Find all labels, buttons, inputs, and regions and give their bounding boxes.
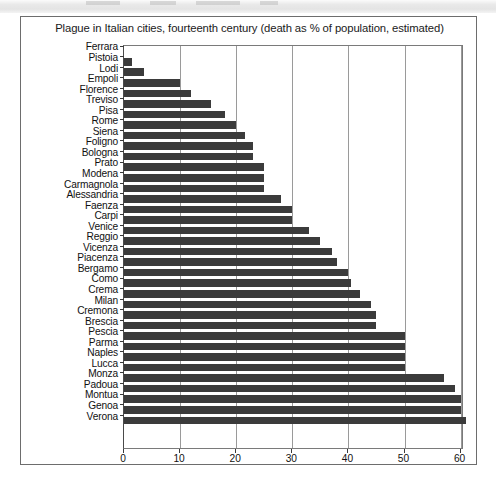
category-label: Siena — [22, 126, 118, 137]
category-label: Ferrara — [22, 41, 118, 52]
category-label: Reggio — [22, 231, 118, 242]
category-label: Cremona — [22, 305, 118, 316]
category-tick — [120, 404, 124, 405]
bar — [124, 343, 405, 351]
bar — [124, 248, 332, 256]
bar-row: Naples — [124, 352, 462, 363]
bar — [124, 237, 320, 245]
category-tick — [120, 172, 124, 173]
bar — [124, 374, 444, 382]
bar — [124, 353, 405, 361]
bar-row: Bergamo — [124, 267, 462, 278]
category-tick — [120, 415, 124, 416]
category-label: Montua — [22, 389, 118, 400]
category-label: Florence — [22, 84, 118, 95]
bar-row: Rome — [124, 120, 462, 131]
x-axis-tick-label: 0 — [120, 453, 126, 464]
category-label: Milan — [22, 295, 118, 306]
bar — [124, 142, 253, 150]
category-label: Piacenza — [22, 252, 118, 263]
bar — [124, 332, 405, 340]
category-label: Crema — [22, 284, 118, 295]
category-label: Pescia — [22, 326, 118, 337]
category-label: Padoua — [22, 379, 118, 390]
category-label: Brescia — [22, 316, 118, 327]
bar — [124, 269, 348, 277]
category-tick — [120, 256, 124, 257]
bar — [124, 195, 281, 203]
x-axis-tick-label: 60 — [454, 453, 465, 464]
bar-row: Piacenza — [124, 257, 462, 268]
x-axis-tick-label: 50 — [398, 453, 409, 464]
x-axis-tick-label: 10 — [173, 453, 184, 464]
bar-row: Monza — [124, 373, 462, 384]
bar-row: Empoli — [124, 78, 462, 89]
bar — [124, 406, 461, 414]
category-label: Verona — [22, 411, 118, 422]
category-tick — [120, 151, 124, 152]
bar-row: Vicenza — [124, 246, 462, 257]
category-tick — [120, 225, 124, 226]
bar — [124, 395, 461, 403]
bar-row: Pescia — [124, 331, 462, 342]
bar-row: Lodi — [124, 67, 462, 78]
bar-row: Foligno — [124, 141, 462, 152]
category-label: Prato — [22, 157, 118, 168]
bar — [124, 111, 225, 119]
category-label: Bergamo — [22, 263, 118, 274]
bar-row: Cremona — [124, 310, 462, 321]
bar — [124, 132, 245, 140]
category-label: Treviso — [22, 94, 118, 105]
category-tick — [120, 214, 124, 215]
category-label: Lodi — [22, 63, 118, 74]
bar — [124, 385, 455, 393]
category-tick — [120, 56, 124, 57]
category-tick — [120, 330, 124, 331]
category-label: Faenza — [22, 200, 118, 211]
category-label: Pistoia — [22, 52, 118, 63]
category-tick — [120, 267, 124, 268]
category-label: Pisa — [22, 105, 118, 116]
chart-page: Plague in Italian cities, fourteenth cen… — [0, 0, 496, 478]
category-label: Rome — [22, 115, 118, 126]
bar-row: Siena — [124, 130, 462, 141]
category-tick — [120, 98, 124, 99]
category-tick — [120, 193, 124, 194]
bar-row: Reggio — [124, 236, 462, 247]
bar — [124, 90, 191, 98]
bar — [124, 121, 236, 129]
bar-row: Crema — [124, 289, 462, 300]
category-label: Bologna — [22, 147, 118, 158]
bar-row: Prato — [124, 162, 462, 173]
bar — [124, 185, 264, 193]
bar — [124, 216, 292, 224]
category-tick — [120, 341, 124, 342]
category-tick — [120, 394, 124, 395]
category-label: Alessandria — [22, 189, 118, 200]
bar-row: Ferrara — [124, 46, 462, 57]
bar — [124, 174, 264, 182]
bar-row: Genoa — [124, 405, 462, 416]
bar-row: Florence — [124, 88, 462, 99]
category-label: Parma — [22, 337, 118, 348]
bar-row: Como — [124, 278, 462, 289]
category-tick — [120, 109, 124, 110]
category-tick — [120, 351, 124, 352]
bar — [124, 68, 144, 76]
bar — [124, 79, 180, 87]
category-tick — [120, 372, 124, 373]
bar — [124, 364, 405, 372]
category-tick — [120, 320, 124, 321]
bar-row: Pistoia — [124, 57, 462, 68]
bar — [124, 301, 371, 309]
bar-row: Faenza — [124, 204, 462, 215]
figure-container: Plague in Italian cities, fourteenth cen… — [20, 16, 477, 465]
bar — [124, 279, 351, 287]
category-tick — [120, 278, 124, 279]
category-label: Genoa — [22, 400, 118, 411]
bar — [124, 163, 264, 171]
category-label: Carmagnola — [22, 179, 118, 190]
bar-row: Parma — [124, 341, 462, 352]
bar-row: Treviso — [124, 99, 462, 110]
x-axis-tick-label: 20 — [230, 453, 241, 464]
